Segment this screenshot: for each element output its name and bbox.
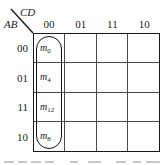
kmap-grid: m0 m4 m12 m8: [33, 33, 160, 152]
kmap-cell-r0c0[interactable]: m0: [34, 34, 65, 63]
column-header-row: 00 01 11 10: [33, 16, 160, 33]
column-header-0: 00: [33, 16, 65, 33]
kmap-cell-r1c0[interactable]: m4: [34, 63, 65, 92]
column-header-1: 01: [65, 16, 97, 33]
kmap-cell-r1c2[interactable]: [97, 63, 128, 92]
minterm-label-r1c0: m4: [40, 72, 51, 82]
minterm-label-r0c0: m0: [40, 43, 51, 53]
kmap-cell-r1c1[interactable]: [65, 63, 96, 92]
kmap-cell-r3c3[interactable]: [128, 122, 159, 151]
karnaugh-map-figure: CD AB 00 01 11 10 00 01 11 10 m0 m4 m12: [0, 0, 167, 165]
scan-artifact: [0, 161, 167, 163]
kmap-cell-r2c2[interactable]: [97, 93, 128, 122]
minterm-label-r2c0: m12: [40, 102, 54, 112]
kmap-cell-r0c3[interactable]: [128, 34, 159, 63]
kmap-corner-header: CD AB: [0, 0, 33, 33]
column-header-2: 11: [97, 16, 129, 33]
kmap-cell-r2c0[interactable]: m12: [34, 93, 65, 122]
row-header-2: 11: [4, 93, 31, 123]
minterm-label-r3c0: m8: [40, 131, 51, 141]
row-header-3: 10: [4, 122, 31, 152]
row-header-0: 00: [4, 33, 31, 63]
column-header-3: 10: [128, 16, 160, 33]
kmap-cell-r3c1[interactable]: [65, 122, 96, 151]
kmap-cell-r0c2[interactable]: [97, 34, 128, 63]
kmap-cell-r0c1[interactable]: [65, 34, 96, 63]
kmap-cell-r2c1[interactable]: [65, 93, 96, 122]
row-axis-label: AB: [4, 19, 17, 30]
kmap-cell-r2c3[interactable]: [128, 93, 159, 122]
kmap-cell-r3c0[interactable]: m8: [34, 122, 65, 151]
kmap-cell-r3c2[interactable]: [97, 122, 128, 151]
row-header-column: 00 01 11 10: [4, 33, 31, 152]
row-header-1: 01: [4, 63, 31, 93]
kmap-cell-r1c3[interactable]: [128, 63, 159, 92]
